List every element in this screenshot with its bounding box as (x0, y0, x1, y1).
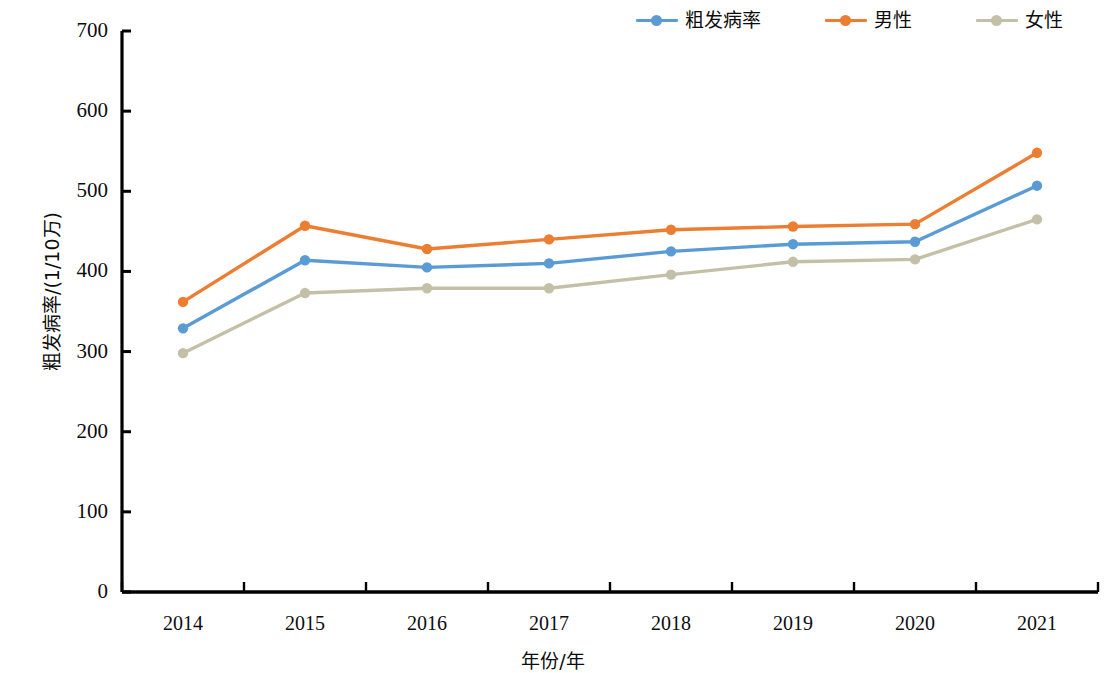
data-point (544, 283, 554, 293)
data-point (422, 283, 432, 293)
x-tick-label: 2020 (855, 613, 975, 633)
y-tick-label: 600 (38, 100, 108, 121)
data-point (910, 237, 920, 247)
x-tick-label: 2014 (123, 613, 243, 633)
x-tick-label: 2018 (611, 613, 731, 633)
data-point (422, 262, 432, 272)
y-axis-title: 粗发病率/(1/10万) (37, 162, 64, 422)
line-chart: 粗发病率 男性 女性 0100200300400500600700 201420… (0, 0, 1106, 673)
data-point (1032, 180, 1042, 190)
x-tick-label: 2015 (245, 613, 365, 633)
data-point (300, 255, 310, 265)
data-point (666, 225, 676, 235)
data-point (300, 221, 310, 231)
y-tick-label: 200 (38, 421, 108, 442)
plot-canvas (0, 0, 1106, 673)
data-point (666, 269, 676, 279)
series-line-0 (183, 186, 1037, 329)
y-tick-label: 700 (38, 20, 108, 41)
data-point (178, 323, 188, 333)
data-point (788, 239, 798, 249)
x-tick-label: 2016 (367, 613, 487, 633)
data-point (910, 219, 920, 229)
data-point (544, 258, 554, 268)
data-point (788, 221, 798, 231)
x-tick-label: 2019 (733, 613, 853, 633)
x-tick-label: 2021 (977, 613, 1097, 633)
data-point (1032, 214, 1042, 224)
data-point (1032, 148, 1042, 158)
y-tick-label: 0 (38, 581, 108, 602)
plot-area: 0100200300400500600700 20142015201620172… (0, 0, 1106, 673)
y-tick-label: 100 (38, 501, 108, 522)
data-point (544, 234, 554, 244)
data-point (178, 348, 188, 358)
data-point (300, 288, 310, 298)
x-tick-label: 2017 (489, 613, 609, 633)
data-point (666, 246, 676, 256)
series-line-1 (183, 153, 1037, 302)
series-line-2 (183, 219, 1037, 353)
data-point (178, 297, 188, 307)
data-point (910, 254, 920, 264)
x-axis-title: 年份/年 (0, 646, 1106, 673)
data-point (788, 257, 798, 267)
data-point (422, 244, 432, 254)
